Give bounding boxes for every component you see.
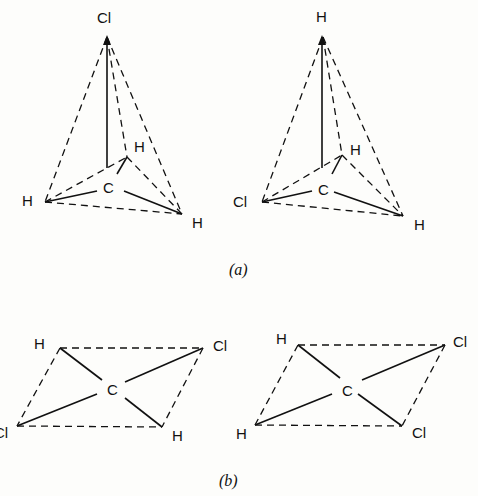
atom-label-center: C	[342, 382, 353, 399]
atom-label-bottom-right: Cl	[412, 424, 426, 441]
caption-a: (a)	[229, 261, 248, 279]
atom-label-center: C	[103, 179, 114, 196]
atom-label-center: C	[318, 181, 329, 198]
tetrahedron-a-left: Cl H H H C	[22, 9, 203, 231]
molecular-geometry-figure: Cl H H H C H H Cl H C (a) H Cl Cl	[0, 0, 478, 496]
planar-b-right: H Cl H Cl C	[236, 330, 467, 442]
caption-b: (b)	[219, 472, 238, 490]
tetrahedron-a-right: H H Cl H C	[233, 8, 425, 233]
atom-label-bottom-left: Cl	[0, 424, 8, 441]
planar-b-left: H Cl Cl H C	[0, 335, 227, 444]
atom-label-right: H	[192, 214, 203, 231]
atom-label-center: C	[107, 381, 118, 398]
atom-label-top-left: H	[276, 330, 287, 347]
atom-label-bottom-left: H	[236, 425, 247, 442]
atom-label-left: H	[22, 192, 33, 209]
atom-label-top: H	[316, 8, 327, 25]
atom-label-right: H	[414, 216, 425, 233]
atom-label-back: H	[134, 138, 145, 155]
atom-label-left: Cl	[233, 193, 247, 210]
atom-label-top-right: Cl	[213, 337, 227, 354]
atom-label-back: H	[350, 141, 361, 158]
atom-label-top-left: H	[34, 335, 45, 352]
atom-label-top-right: Cl	[453, 333, 467, 350]
atom-label-bottom-right: H	[172, 427, 183, 444]
atom-label-top: Cl	[97, 9, 111, 26]
